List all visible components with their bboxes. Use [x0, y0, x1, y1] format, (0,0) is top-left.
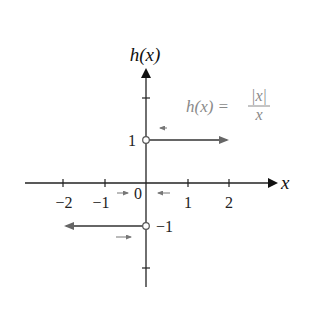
formula-numerator: |x|: [251, 87, 267, 105]
function-formula: h(x) = |x| x: [186, 87, 270, 123]
formula-lhs: h(x) =: [186, 97, 229, 116]
tick-label-x-neg1: −1: [92, 194, 109, 211]
tick-label-y-1: 1: [128, 132, 136, 149]
tick-label-x-2: 2: [225, 194, 233, 211]
tick-label-x-1: 1: [184, 194, 192, 211]
x-axis-label: x: [280, 172, 290, 193]
open-point-neg1: [143, 223, 150, 230]
tick-label-y-neg1: −1: [156, 218, 173, 235]
tick-label-x-neg2: −2: [55, 194, 72, 211]
tick-label-x-0: 0: [134, 185, 142, 202]
formula-denominator: x: [254, 106, 262, 123]
open-point-1: [143, 137, 150, 144]
y-axis-label: h(x): [130, 44, 161, 66]
graph-container: h(x) x −2 −1 0 1 2 1 −1 h(x) = |x| x: [0, 0, 313, 315]
function-graph: h(x) x −2 −1 0 1 2 1 −1 h(x) = |x| x: [0, 0, 313, 315]
